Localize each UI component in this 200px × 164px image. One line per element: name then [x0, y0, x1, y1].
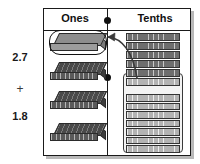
place-value-diagram: 2.7 + 1.8 Ones Tenths [0, 0, 200, 164]
tenth-rod-grouped [126, 128, 180, 136]
ones-flat-block [50, 123, 104, 143]
tenth-rod-grouped [126, 145, 180, 153]
ones-column-blocks [48, 33, 106, 153]
column-header-ones: Ones [44, 12, 106, 24]
ones-flat-block [50, 91, 104, 111]
tenth-rod [126, 51, 180, 59]
tenth-rod [126, 69, 180, 77]
tenth-rod-grouped [126, 103, 180, 111]
operand-stack: 2.7 + 1.8 [0, 38, 40, 148]
regroup-highlight-ring [49, 30, 107, 55]
plus-operator: + [0, 82, 40, 96]
operand-bottom: 1.8 [0, 110, 40, 122]
tenth-rod-grouped [126, 94, 180, 102]
tenth-rod-grouped [126, 137, 180, 145]
decimal-point-dot-header [104, 17, 111, 24]
tenth-rod [126, 33, 180, 41]
tenth-rod [126, 42, 180, 50]
tenth-rod-grouped [126, 78, 180, 86]
operand-top: 2.7 [0, 51, 40, 63]
block-front-face [50, 101, 98, 109]
tenth-rod-grouped [126, 120, 180, 128]
tenth-rod [126, 60, 180, 68]
block-front-face [50, 72, 98, 80]
decimal-divider-line [107, 9, 108, 155]
ones-flat-block [50, 62, 104, 82]
column-header-row: Ones Tenths [44, 9, 190, 31]
ones-flat-block-highlighted [50, 33, 104, 53]
block-front-face [50, 133, 98, 141]
column-header-tenths: Tenths [122, 12, 188, 24]
place-value-chart: Ones Tenths [43, 8, 191, 156]
tenth-rod-grouped [126, 111, 180, 119]
tenths-column-rods [124, 33, 186, 153]
